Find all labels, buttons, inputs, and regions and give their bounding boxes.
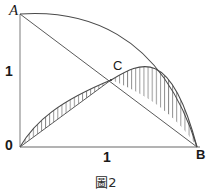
x-axis-tick-label-1: 1 xyxy=(103,150,111,164)
label-point-c: C xyxy=(113,59,122,72)
figure-caption: 圖2 xyxy=(0,172,212,191)
point-c-marker xyxy=(110,79,112,81)
label-point-b: B xyxy=(196,148,205,161)
y-axis-tick-label-0: 0 xyxy=(5,138,13,152)
figure-container: A C B 1 0 1 圖2 xyxy=(0,0,212,194)
chord-origin-c xyxy=(20,80,111,147)
label-point-a: A xyxy=(9,3,18,18)
y-axis-tick-label-1: 1 xyxy=(5,64,13,78)
